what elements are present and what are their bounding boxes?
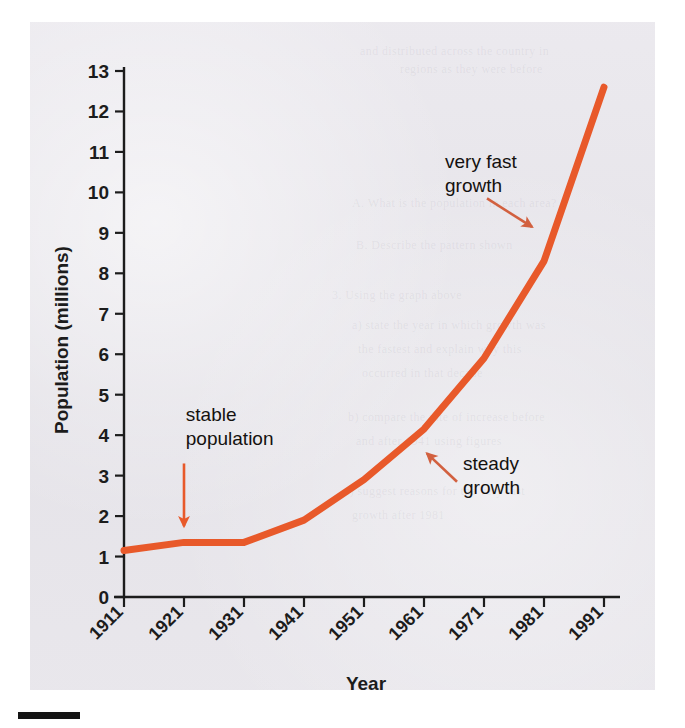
x-axis-title: Year: [346, 673, 387, 694]
figure-page: and distributed across the country inreg…: [0, 0, 685, 728]
annotation-label-very-fast-growth: growth: [445, 175, 502, 196]
y-axis-tick-label: 9: [98, 223, 109, 244]
x-axis-tick-label: 1931: [204, 602, 246, 644]
y-axis-tick-label: 2: [98, 506, 109, 527]
annotation-label-stable-population: stable: [186, 404, 237, 425]
y-axis-tick-label: 3: [98, 466, 109, 487]
annotation-label-steady-growth: growth: [463, 477, 520, 498]
x-axis-tick-label: 1921: [144, 602, 186, 644]
x-axis-tick-label: 1981: [504, 602, 546, 644]
x-axis-tick-label: 1951: [324, 602, 366, 644]
annotation-arrow-very-fast-growth: [487, 198, 532, 226]
y-axis-tick-label: 6: [98, 344, 109, 365]
figure-caption-rule: [18, 712, 80, 719]
x-axis-tick-label: 1961: [384, 602, 426, 644]
annotation-label-steady-growth: steady: [463, 453, 519, 474]
y-axis-title: Population (millions): [51, 246, 72, 434]
y-axis-tick-label: 8: [98, 263, 109, 284]
annotation-label-stable-population: population: [186, 428, 274, 449]
x-axis-tick-label: 1941: [264, 602, 306, 644]
y-axis-tick-label: 11: [89, 142, 110, 163]
annotation-label-very-fast-growth: very fast: [445, 151, 518, 172]
y-axis-tick-label: 5: [98, 385, 109, 406]
y-axis-tick-label: 10: [88, 182, 109, 203]
annotation-arrow-steady-growth: [427, 453, 457, 481]
population-data-line: [124, 87, 604, 550]
x-axis-tick-label: 1971: [444, 602, 486, 644]
y-axis-tick-label: 13: [88, 61, 109, 82]
y-axis-tick-label: 12: [88, 101, 109, 122]
y-axis-tick-label: 7: [98, 304, 109, 325]
x-axis-tick-label: 1911: [85, 602, 127, 644]
x-axis-tick-label: 1991: [564, 602, 606, 644]
population-growth-line-chart: 0123456789101112131911192119311941195119…: [0, 0, 685, 728]
y-axis-tick-label: 4: [98, 425, 109, 446]
y-axis-tick-label: 1: [98, 547, 109, 568]
y-axis-tick-label: 0: [98, 587, 109, 608]
